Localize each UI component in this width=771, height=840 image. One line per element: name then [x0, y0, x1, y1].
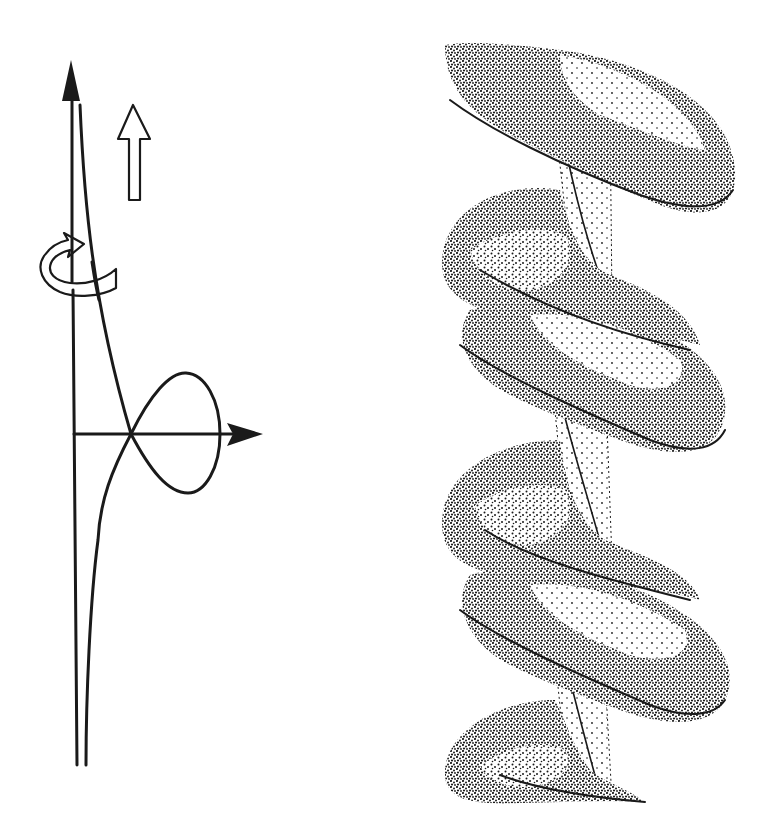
- vertical-axis-arrowhead-icon: [62, 60, 80, 101]
- translation-arrow-icon: [118, 105, 150, 200]
- helix-drawing: [400, 0, 771, 840]
- schematic-drawing: [0, 0, 300, 840]
- vertical-axis: [62, 60, 80, 765]
- generating-curve-schematic: [0, 0, 300, 840]
- stippled-helix: [400, 0, 771, 840]
- helical-tube: [442, 43, 735, 803]
- horizontal-axis: [74, 423, 263, 446]
- rotation-arrow-icon: [41, 233, 116, 300]
